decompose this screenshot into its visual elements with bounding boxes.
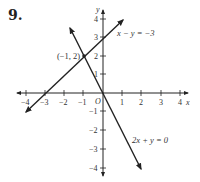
x-tick-label: −2 — [59, 98, 68, 107]
x-axis-label: x — [185, 98, 190, 107]
equation-label-1: x − y = −3 — [116, 28, 155, 38]
intersection-label: (−1, 2) — [57, 51, 80, 61]
y-tick-label: 2 — [94, 52, 98, 61]
x-tick-label: 1 — [120, 98, 124, 107]
x-tick-label: −1 — [78, 98, 87, 107]
y-tick-label: 3 — [94, 33, 98, 42]
x-tick-label: 2 — [139, 98, 143, 107]
x-tick-label: −4 — [21, 98, 30, 107]
y-tick-label: −1 — [89, 107, 98, 116]
intersection-point — [82, 54, 86, 58]
y-tick-label: −2 — [89, 126, 98, 135]
y-tick-label: −4 — [89, 164, 98, 173]
y-tick-label: −3 — [89, 145, 98, 154]
x-tick-label: 4 — [178, 98, 182, 107]
x-tick-label: −3 — [40, 98, 49, 107]
graph-figure: 9. −4 −3 −2 −1 1 2 3 4 x O y 4 3 2 1 −1 … — [0, 0, 200, 182]
equation-label-2: 2x + y = 0 — [132, 135, 169, 145]
x-tick-label: 3 — [159, 98, 163, 107]
line-x-minus-y-eq-neg3 — [26, 20, 123, 112]
y-axis-label: y — [95, 5, 100, 14]
problem-number: 9. — [8, 7, 23, 23]
y-tick-label: 4 — [94, 15, 98, 24]
origin-label: O — [95, 97, 101, 106]
